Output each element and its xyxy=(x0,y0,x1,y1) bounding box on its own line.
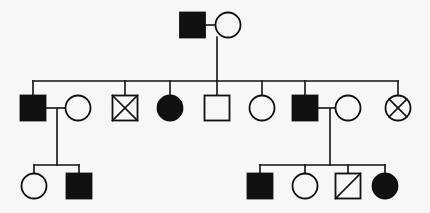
symbol-square-III-3 xyxy=(248,174,273,199)
pedigree-chart xyxy=(0,0,430,213)
symbol-square-II-7 xyxy=(293,96,318,121)
individual-III-5 xyxy=(336,174,361,199)
symbol-circle-II-8 xyxy=(336,96,361,121)
symbol-circle-II-4 xyxy=(158,96,183,121)
symbol-square-I-1 xyxy=(180,13,205,38)
individual-II-5 xyxy=(205,96,230,121)
symbol-circle-I-2 xyxy=(216,13,241,38)
individual-II-7 xyxy=(293,96,318,121)
symbol-circle-III-1 xyxy=(22,174,47,199)
individual-I-2 xyxy=(216,13,241,38)
individual-III-1 xyxy=(22,174,47,199)
individual-III-2 xyxy=(67,174,92,199)
symbol-square-II-1 xyxy=(21,96,46,121)
symbol-circle-II-6 xyxy=(250,96,275,121)
individual-I-1 xyxy=(180,13,205,38)
symbol-square-II-5 xyxy=(205,96,230,121)
symbol-circle-III-6 xyxy=(373,174,398,199)
individual-II-4 xyxy=(158,96,183,121)
individual-III-4 xyxy=(293,174,318,199)
individual-II-6 xyxy=(250,96,275,121)
symbol-circle-III-4 xyxy=(293,174,318,199)
symbol-circle-II-2 xyxy=(66,96,91,121)
individual-III-3 xyxy=(248,174,273,199)
individual-II-8 xyxy=(336,96,361,121)
individual-II-9 xyxy=(386,96,411,121)
individual-II-1 xyxy=(21,96,46,121)
individual-III-6 xyxy=(373,174,398,199)
individual-II-2 xyxy=(66,96,91,121)
pedigree-canvas xyxy=(0,0,430,213)
symbol-square-III-2 xyxy=(67,174,92,199)
individual-II-3 xyxy=(113,96,138,121)
